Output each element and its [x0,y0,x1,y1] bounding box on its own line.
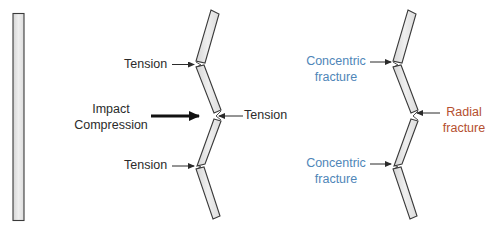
concentric-fracture-top-label-line2: fracture [303,70,369,85]
glass-segment-1 [393,10,416,63]
radial-fracture-label-line1: Radial [440,105,488,120]
radial-fracture-label-line2: fracture [440,121,488,136]
concentric-fracture-bottom-label-line1: Concentric [303,156,369,171]
glass-fracture-diagram: Tension Impact Compression Tension Tensi… [0,0,488,229]
glass-segment-2 [196,65,221,113]
bent-glass-forces [151,10,243,219]
glass-segment-1 [196,10,219,63]
concentric-fracture-bottom-label-line2: fracture [303,172,369,187]
intact-glass-pane [13,14,24,221]
bent-glass-fractures [370,10,440,219]
tension-middle-label: Tension [244,108,287,123]
concentric-fracture-top-label-line1: Concentric [303,54,369,69]
tension-bottom-label: Tension [124,158,167,173]
glass-segment-3 [197,119,221,166]
tension-top-label: Tension [124,57,167,72]
glass-segment-2 [393,65,418,113]
glass-segment-3 [394,119,418,166]
glass-segment-4 [196,167,220,219]
compression-label: Compression [71,118,151,133]
impact-label: Impact [71,102,151,117]
glass-segment-4 [393,167,417,219]
